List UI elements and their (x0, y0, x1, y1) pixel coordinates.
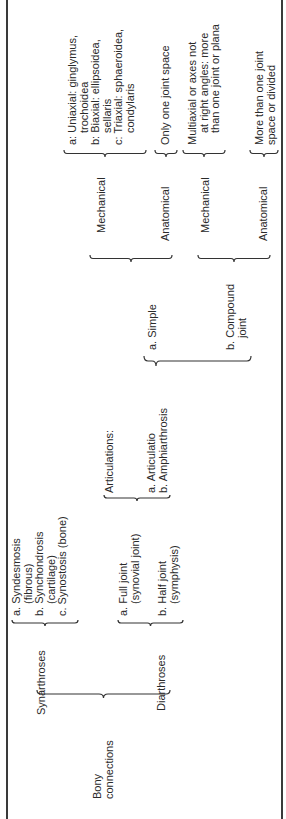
compound-mech-line3: than one joint or plana (210, 24, 222, 145)
simple-anatomical-label: Anatomical (160, 187, 172, 241)
simple-anatomical-text: Only one joint space (160, 45, 172, 145)
synarthroses-list: a. Syndesmosis (fibrous) b. Synchondrosi… (11, 516, 69, 616)
compound-mech-line1: Multiaxial or axes not (187, 24, 199, 145)
compound-mechanical-text: Multiaxial or axes not at right angles: … (187, 24, 222, 145)
joint-type-compound: b. Compound joint (225, 284, 248, 350)
triaxial-line: c: Triaxial: sphaeroidea, (113, 29, 125, 145)
compound-anat-line2: space or divided (266, 51, 278, 145)
joint-types-brace (144, 355, 251, 367)
diarthroses-label: Diarthroses (156, 655, 168, 711)
artic-item-b: b. Amphiarthrosis (158, 408, 170, 493)
compound-mechanical-brace (183, 149, 225, 158)
triaxial-sub: condylaris (125, 29, 137, 145)
compound-anatomical-text: More than one joint space or divided (254, 51, 277, 145)
synarthroses-label: Synarthroses (36, 650, 48, 715)
diarthroses-list: a. Full joint (synovial joint) b. Half j… (118, 534, 180, 616)
compound-mechanical-label: Mechanical (200, 177, 212, 233)
compound-anat-line1: More than one joint (254, 51, 266, 145)
syn-item-c: c. Synostosis (bone) (57, 516, 69, 616)
syn-item-a: a. Syndesmosis (11, 516, 23, 616)
simple-brace (90, 254, 172, 263)
simple-mechanical-label: Mechanical (96, 177, 108, 233)
uniaxial-line: a: Uniaxial: ginglymus, (67, 29, 79, 145)
bottom-rule (281, 0, 283, 819)
diar-item-a-sub: (synovial joint) (130, 534, 142, 616)
mechanical-types-brace (64, 149, 146, 158)
diar-item-b-sub: (symphysis) (169, 534, 181, 616)
diar-item-b: b. Half joint (157, 534, 169, 616)
root-brace (37, 689, 170, 699)
joint-type-simple: a. Simple (147, 304, 159, 350)
diar-item-a: a. Full joint (118, 534, 130, 616)
compound-anatomical-label: Anatomical (258, 187, 270, 241)
diarthroses-brace (118, 619, 183, 627)
compound-anatomical-brace (250, 149, 278, 158)
biaxial-line: b: Biaxial: ellipsoidea, (90, 29, 102, 145)
mechanical-types-list: a: Uniaxial: ginglymus, trochoidea b: Bi… (67, 29, 136, 145)
root-label-text: Bony connections (91, 740, 115, 799)
articulations-list: a. Articulatio b. Amphiarthrosis (146, 408, 169, 493)
compound-brace (198, 254, 270, 263)
root-label: Bony connections (92, 739, 115, 799)
synarthroses-brace (12, 619, 78, 627)
classification-diagram: Bony connections Synarthroses a. Syndesm… (0, 0, 286, 819)
articulations-brace (104, 494, 170, 502)
articulations-label: Articulations: (104, 430, 116, 493)
simple-anatomical-brace (155, 149, 177, 158)
joint-type-compound-sub: joint (237, 284, 249, 350)
top-rule (6, 0, 8, 819)
syn-item-b: b. Synchondrosis (34, 516, 46, 616)
